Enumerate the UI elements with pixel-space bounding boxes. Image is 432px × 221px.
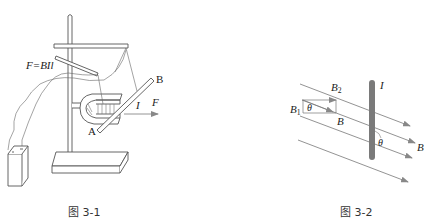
label-b2: B2 [331, 82, 342, 95]
label-theta-right: θ [378, 138, 383, 148]
cross-arm [54, 44, 128, 48]
caption-figure-3-2-text: 图 3-2 [340, 206, 372, 219]
label-b-text: B [156, 73, 163, 85]
magnetic-field-lines [298, 84, 415, 182]
caption-figure-3-1-text: 图 3-1 [68, 206, 100, 219]
current-conductor [369, 80, 375, 160]
label-b2-sub: 2 [338, 86, 342, 95]
label-a-end: A [88, 126, 96, 137]
label-force-text: F [152, 96, 159, 108]
label-theta-right-text: θ [378, 137, 383, 148]
caption-figure-3-1: 图 3-1 [68, 203, 100, 219]
horseshoe-magnet [80, 94, 122, 124]
label-b1-main: B [290, 103, 297, 115]
label-a-text: A [88, 125, 96, 137]
caption-figure-3-2: 图 3-2 [340, 203, 372, 219]
stand-rod [68, 15, 72, 163]
label-b1-sub: 1 [297, 108, 301, 117]
slanted-arm [55, 56, 98, 76]
label-theta-left: θ [307, 103, 312, 113]
label-b-field: B [417, 142, 424, 153]
label-b-end: B [156, 74, 163, 85]
formula-text: F=BIl [26, 59, 54, 71]
battery [8, 146, 28, 186]
formula-label: F=BIl [26, 60, 54, 71]
label-force: F [152, 97, 159, 108]
label-current: I [136, 100, 140, 111]
figure-3-2 [298, 80, 415, 182]
label-b1: B1 [290, 104, 301, 117]
physics-diagrams [0, 0, 432, 221]
label-b-component: B [337, 116, 344, 127]
label-current-i: I [380, 80, 384, 91]
label-b-field-text: B [417, 141, 424, 153]
label-current-text: I [136, 99, 140, 111]
stand-base [52, 152, 128, 173]
conductor-rod-ab [97, 78, 154, 133]
label-b2-main: B [331, 81, 338, 93]
label-b-component-text: B [337, 115, 344, 127]
label-current-i-text: I [380, 79, 384, 91]
label-theta-left-text: θ [307, 102, 312, 113]
